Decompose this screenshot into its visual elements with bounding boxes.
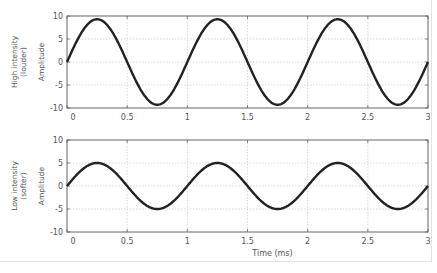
panel-label: (softer)	[19, 172, 28, 200]
x-tick-label: 1.5	[241, 237, 254, 246]
x-tick-label: 1	[185, 237, 190, 246]
x-tick-label: 0.5	[121, 113, 134, 122]
y-tick-label: 10	[53, 12, 63, 21]
y-tick-label: 10	[53, 136, 63, 145]
x-tick-label: 0.5	[121, 237, 134, 246]
chart-figure: 00.511.522.531050-5-10AmplitudeHigh inte…	[0, 0, 437, 273]
x-tick-label: 2	[305, 237, 310, 246]
panel-label: High intensity	[10, 35, 19, 88]
y-tick-label: 0	[58, 182, 63, 191]
panel-low-intensity: 00.511.522.531050-5-10AmplitudeLow inten…	[10, 136, 431, 258]
y-tick-label: 0	[58, 58, 63, 67]
y-tick-label: -5	[55, 205, 63, 214]
x-tick-label: 1.5	[241, 113, 254, 122]
y-axis-label: Amplitude	[37, 166, 46, 205]
x-tick-label: 2.5	[361, 113, 374, 122]
x-tick-label: 3	[425, 237, 430, 246]
x-tick-label: 0	[70, 113, 75, 122]
y-tick-label: 5	[58, 159, 63, 168]
y-tick-label: -10	[50, 104, 63, 113]
x-axis-label: Time (ms)	[251, 249, 292, 258]
y-tick-label: 5	[58, 35, 63, 44]
x-tick-label: 3	[425, 113, 430, 122]
y-tick-label: -5	[55, 81, 63, 90]
y-tick-label: -10	[50, 228, 63, 237]
panel-label: Low intensity	[10, 161, 19, 211]
x-tick-label: 2	[305, 113, 310, 122]
y-axis-label: Amplitude	[37, 42, 46, 81]
x-tick-label: 1	[185, 113, 190, 122]
panel-high-intensity: 00.511.522.531050-5-10AmplitudeHigh inte…	[10, 12, 431, 122]
x-tick-label: 0	[70, 237, 75, 246]
x-tick-label: 2.5	[361, 237, 374, 246]
panel-label: (louder)	[19, 47, 28, 77]
